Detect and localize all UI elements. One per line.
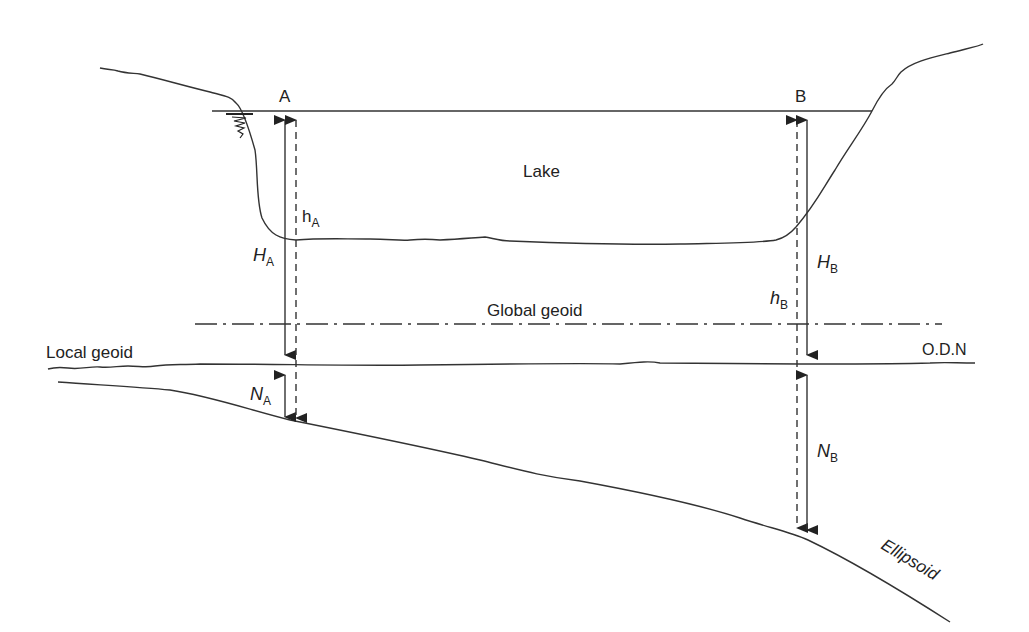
geoid-ellipsoid-diagram: A B Lake hA HA NA HB hB NB Global geoid … — [0, 0, 1029, 632]
N-B-label: NB — [817, 441, 838, 465]
N-A-label: NA — [250, 384, 271, 408]
h-A-label: hA — [302, 207, 319, 230]
left-terrain-line — [100, 68, 296, 240]
local-geoid-line — [48, 362, 975, 369]
h-B-label: hB — [770, 288, 788, 312]
ellipsoid-line — [58, 382, 950, 622]
H-A-label: HA — [253, 245, 274, 269]
water-level-icon — [226, 114, 253, 138]
H-B-label: HB — [817, 252, 838, 276]
local-geoid-label: Local geoid — [46, 343, 133, 362]
right-terrain-line — [796, 44, 983, 227]
ellipsoid-label: Ellipsoid — [878, 535, 943, 584]
lake-label: Lake — [523, 162, 560, 181]
odn-label: O.D.N — [922, 341, 966, 358]
point-b-label: B — [795, 87, 806, 106]
global-geoid-label: Global geoid — [487, 301, 582, 320]
lake-bottom-line — [296, 227, 796, 244]
point-a-label: A — [279, 87, 291, 106]
